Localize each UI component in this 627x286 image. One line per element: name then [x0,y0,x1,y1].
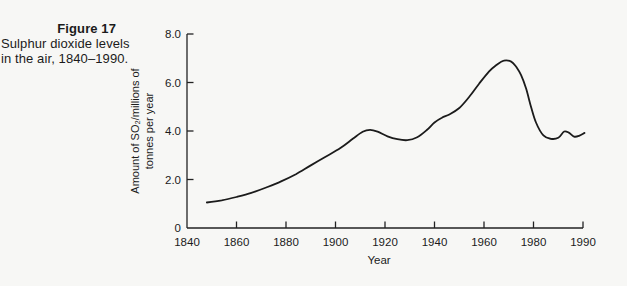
x-tick-label: 1840 [174,236,200,248]
y-axis-label-line-1: Amount of SO₂/millions of [129,67,141,193]
x-tick-label: 1960 [471,236,497,248]
so2-curve [207,60,585,202]
x-tick-label: 1990 [570,236,596,248]
so2-line-chart: 8.06.04.02.00184018601880190019201940196… [0,0,627,286]
x-tick-label: 1920 [372,236,398,248]
y-tick-label: 0 [175,222,181,234]
x-tick-label: 1940 [422,236,448,248]
x-tick-label: 1980 [521,236,547,248]
x-tick-label: 1900 [323,236,349,248]
chart-axes: 8.06.04.02.00184018601880190019201940196… [165,28,596,248]
x-tick-label: 1880 [273,236,299,248]
x-axis-label: Year [367,254,390,266]
y-tick-label: 6.0 [165,77,181,89]
y-axis-label-line-2: tonnes per year [143,92,155,169]
figure-page: Figure 17 Sulphur dioxide levels in the … [0,0,627,286]
y-tick-label: 4.0 [165,125,181,137]
x-tick-label: 1860 [224,236,250,248]
y-tick-label: 2.0 [165,174,181,186]
y-tick-label: 8.0 [165,28,181,40]
